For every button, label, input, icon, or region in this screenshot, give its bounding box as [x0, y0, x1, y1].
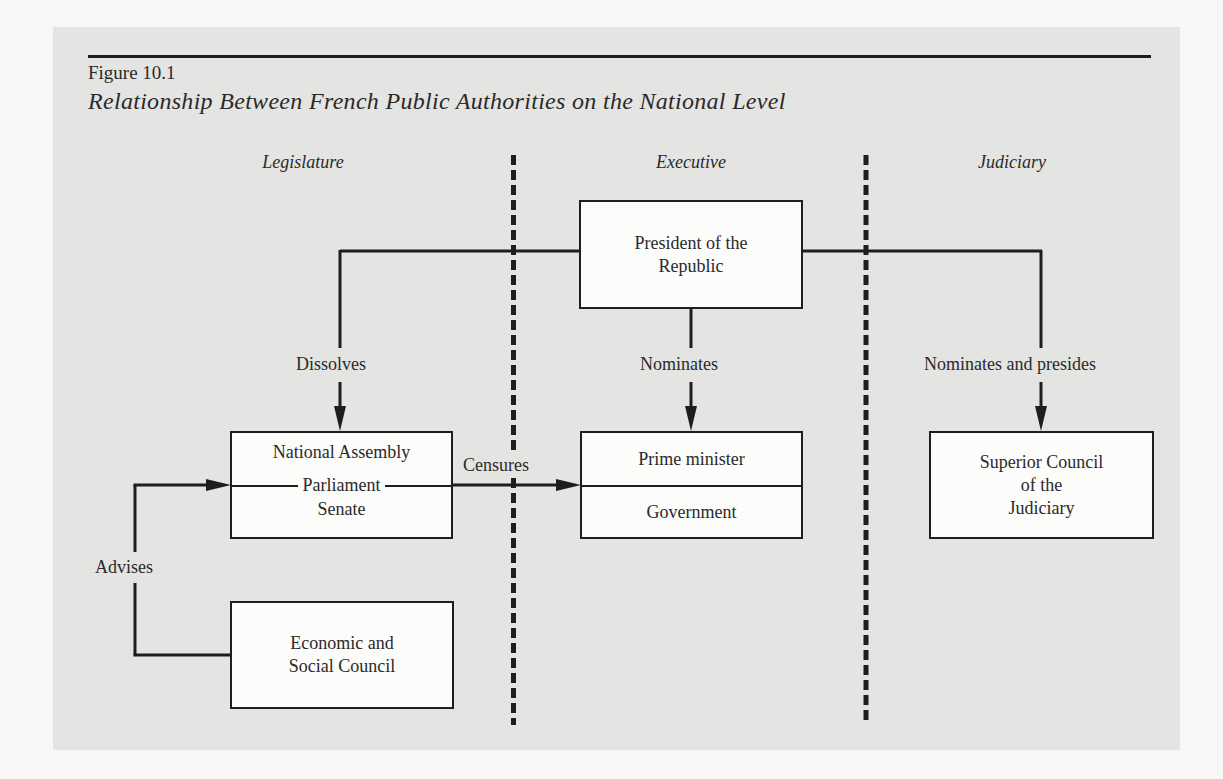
connector-lines [0, 0, 1223, 779]
edge-label-nominates-presides: Nominates and presides [924, 354, 1096, 375]
economic-council-line1: Economic and [290, 632, 393, 655]
superior-council-line3: Judiciary [1009, 497, 1075, 520]
edge-label-dissolves: Dissolves [296, 354, 366, 375]
president-line2: Republic [659, 255, 724, 278]
node-economic-social-council: Economic and Social Council [230, 601, 454, 709]
parliament-national-assembly: National Assembly [232, 441, 451, 464]
edge-label-advises: Advises [95, 557, 153, 578]
president-line1: President of the [635, 232, 748, 255]
superior-council-line2: of the [1021, 474, 1062, 497]
prime-minister-label: Prime minister [582, 433, 801, 485]
parliament-label: Parliament [298, 475, 386, 495]
node-parliament: National Assembly Parliament Senate [230, 431, 453, 539]
node-superior-council: Superior Council of the Judiciary [929, 431, 1154, 539]
parliament-senate: Senate [232, 498, 451, 521]
edge-label-censures: Censures [463, 455, 529, 476]
edge-label-nominates: Nominates [640, 354, 718, 375]
government-label: Government [582, 487, 801, 537]
superior-council-line1: Superior Council [980, 451, 1104, 474]
node-prime-minister: Prime minister Government [580, 431, 803, 539]
node-president: President of the Republic [579, 200, 803, 309]
economic-council-line2: Social Council [289, 655, 396, 678]
